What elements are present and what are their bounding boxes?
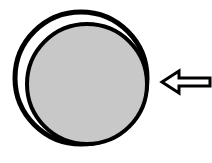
diagram-canvas: Eccentric ring and disc with applied for… — [0, 0, 212, 163]
diagram-svg — [0, 0, 212, 163]
inner-disc-circle — [27, 24, 147, 144]
